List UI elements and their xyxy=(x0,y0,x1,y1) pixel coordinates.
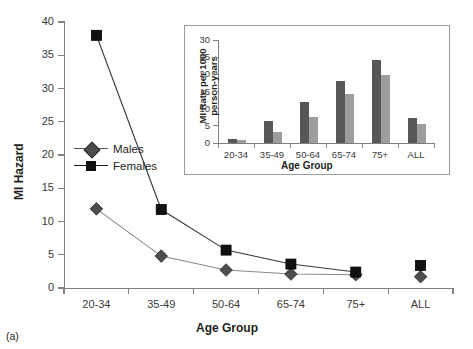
inset-x-tick xyxy=(218,144,219,148)
diamond-marker-icon xyxy=(74,142,108,156)
inset-y-tick-label: 0 xyxy=(188,137,210,148)
inset-x-tick xyxy=(398,144,399,148)
bar-females-75+ xyxy=(381,75,390,143)
inset-y-tick-label: 15 xyxy=(188,86,210,97)
figure-panel-a: MI Hazard Age Group 0510152025303540 20-… xyxy=(0,0,473,349)
data-point-females-20-34 xyxy=(91,30,101,40)
legend: Males Females xyxy=(74,140,157,174)
bar-males-35-49 xyxy=(264,121,273,143)
bar-males-50-64 xyxy=(300,102,309,143)
inset-y-tick xyxy=(213,57,218,58)
inset-y-tick-label: 20 xyxy=(188,68,210,79)
inset-bar-group xyxy=(219,40,435,143)
panel-label: (a) xyxy=(6,330,19,342)
inset-y-tick xyxy=(213,108,218,109)
bar-males-65-74 xyxy=(336,81,345,143)
data-point-males-50-64 xyxy=(220,264,233,277)
inset-y-tick-label: 5 xyxy=(188,120,210,131)
bar-females-35-49 xyxy=(273,132,282,143)
data-point-females-75+ xyxy=(351,267,361,277)
data-point-females-65-74 xyxy=(286,259,296,269)
bar-males-ALL xyxy=(408,118,417,143)
data-point-females-50-64 xyxy=(221,245,231,255)
inset-x-tick xyxy=(326,144,327,148)
inset-x-tick xyxy=(254,144,255,148)
inset-y-tick xyxy=(213,91,218,92)
inset-y-tick-label: 25 xyxy=(188,51,210,62)
inset-y-tick xyxy=(213,74,218,75)
bar-males-20-34 xyxy=(228,139,237,143)
data-point-females-35-49 xyxy=(156,205,166,215)
bar-females-ALL xyxy=(417,124,426,143)
legend-label-females: Females xyxy=(113,160,157,172)
data-point-males-ALL xyxy=(414,270,427,283)
bar-females-20-34 xyxy=(237,140,246,143)
data-point-females-ALL xyxy=(416,260,426,270)
inset-x-tick xyxy=(434,144,435,148)
inset-y-tick-label: 30 xyxy=(188,34,210,45)
bar-females-65-74 xyxy=(345,94,354,143)
data-point-males-65-74 xyxy=(285,268,298,281)
inset-x-tick-label: ALL xyxy=(394,149,438,160)
legend-label-males: Males xyxy=(113,143,144,155)
data-point-males-35-49 xyxy=(155,250,168,263)
inset-bar-chart: MI Rate per 1000 person-years Age Group … xyxy=(184,25,450,175)
data-point-males-20-34 xyxy=(90,203,103,216)
bar-females-50-64 xyxy=(309,117,318,143)
inset-x-tick xyxy=(290,144,291,148)
square-marker-icon xyxy=(74,159,108,173)
inset-y-tick xyxy=(213,40,218,41)
inset-x-axis-title: Age Group xyxy=(281,160,333,171)
inset-y-tick-label: 10 xyxy=(188,103,210,114)
legend-item-males: Males xyxy=(74,140,157,157)
inset-y-tick xyxy=(213,125,218,126)
inset-x-tick xyxy=(362,144,363,148)
bar-males-75+ xyxy=(372,60,381,143)
legend-item-females: Females xyxy=(74,157,157,174)
